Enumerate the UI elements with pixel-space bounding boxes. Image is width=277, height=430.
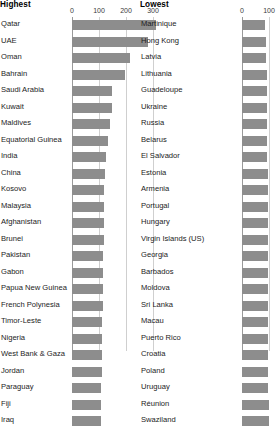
category-label: Belarus: [141, 135, 167, 145]
chart-row: Armenia: [140, 182, 277, 199]
category-label: Kosovo: [1, 184, 26, 194]
chart-row: Guadeloupe: [140, 83, 277, 100]
chart-row: Puerto Rico: [140, 331, 277, 348]
chart-row: Portugal: [140, 199, 277, 216]
bar: [242, 268, 268, 278]
chart-row: UAE: [0, 34, 163, 51]
bar: [242, 367, 268, 377]
chart-row: Poland: [140, 364, 277, 381]
category-label: Hong Kong: [141, 36, 179, 46]
panel-highest: Highest 0100200300 QatarUAEOmanBahrainSa…: [0, 0, 163, 351]
category-label: Kuwait: [1, 102, 24, 112]
bar: [72, 136, 108, 146]
category-label: Ukraine: [141, 102, 167, 112]
bar: [242, 37, 266, 47]
bar: [242, 20, 265, 30]
category-label: Hungary: [141, 217, 170, 227]
axis-tick-label: 100: [93, 7, 105, 15]
category-label: Georgia: [141, 250, 168, 260]
category-label: Macau: [141, 316, 164, 326]
bar: [72, 301, 103, 311]
bar: [242, 169, 268, 179]
axis-tick-label: 100: [263, 7, 275, 15]
category-label: Maldives: [1, 118, 31, 128]
chart-row: Moldova: [140, 281, 277, 298]
chart-row: Lithuania: [140, 67, 277, 84]
chart-row: Equatorial Guinea: [0, 133, 163, 150]
bar: [242, 334, 268, 344]
bar: [72, 367, 102, 377]
bar: [242, 301, 268, 311]
category-label: Poland: [141, 366, 165, 376]
chart-row: Kosovo: [0, 182, 163, 199]
category-label: Jordan: [1, 366, 24, 376]
category-label: Malaysia: [1, 201, 31, 211]
bar: [72, 119, 110, 129]
chart-row: Qatar: [0, 17, 163, 34]
category-label: Guadeloupe: [141, 85, 182, 95]
chart-row: Afghanistan: [0, 215, 163, 232]
category-label: Réunion: [141, 399, 169, 409]
category-label: Martinique: [141, 19, 176, 29]
chart-row: Sri Lanka: [140, 298, 277, 315]
chart-row: Oman: [0, 50, 163, 67]
chart-row: Pakistan: [0, 248, 163, 265]
axis-tick-label: 200: [120, 7, 132, 15]
chart-row: Fiji: [0, 397, 163, 414]
category-label: Puerto Rico: [141, 333, 181, 343]
chart-row: Russia: [140, 116, 277, 133]
bar: [242, 185, 268, 195]
bar: [72, 268, 103, 278]
chart-row: Estonia: [140, 166, 277, 183]
category-label: Nigeria: [1, 333, 25, 343]
chart-row: Maldives: [0, 116, 163, 133]
category-label: Bahrain: [1, 69, 27, 79]
chart-row: Gabon: [0, 265, 163, 282]
chart-row: El Salvador: [140, 149, 277, 166]
category-label: Portugal: [141, 201, 169, 211]
bar: [72, 70, 125, 80]
chart-row: Timor-Leste: [0, 314, 163, 331]
bar: [72, 202, 104, 212]
bar: [72, 235, 104, 245]
chart-row: West Bank & Gaza: [0, 347, 163, 364]
category-label: Barbados: [141, 267, 174, 277]
panel-lowest: Lowest 0100 MartiniqueHong KongLatviaLit…: [140, 0, 277, 351]
chart-row: Uruguay: [140, 380, 277, 397]
bar: [242, 152, 267, 162]
bar: [72, 400, 101, 410]
bar: [72, 185, 104, 195]
chart-row: Macau: [140, 314, 277, 331]
chart-row: Saudi Arabia: [0, 83, 163, 100]
bar: [242, 317, 268, 327]
bar: [242, 350, 268, 360]
axis-tick-label: 0: [70, 7, 74, 15]
bar: [242, 251, 268, 261]
category-label: Swaziland: [141, 415, 176, 425]
bar: [242, 235, 268, 245]
chart-row: Belarus: [140, 133, 277, 150]
chart-row: French Polynesia: [0, 298, 163, 315]
bar: [72, 350, 102, 360]
category-label: Oman: [1, 52, 22, 62]
category-label: Virgin Islands (US): [141, 234, 204, 244]
chart-row: Bahrain: [0, 67, 163, 84]
category-label: Moldova: [141, 283, 170, 293]
chart-row: Georgia: [140, 248, 277, 265]
category-label: Saudi Arabia: [1, 85, 44, 95]
category-label: Armenia: [141, 184, 169, 194]
chart-row: Latvia: [140, 50, 277, 67]
bar: [242, 70, 267, 80]
bar: [72, 416, 101, 426]
bar: [72, 37, 148, 47]
category-label: Gabon: [1, 267, 24, 277]
bar: [242, 136, 267, 146]
bar: [242, 284, 268, 294]
category-label: Timor-Leste: [1, 316, 41, 326]
chart-row: Barbados: [140, 265, 277, 282]
category-label: China: [1, 168, 21, 178]
chart-row: Virgin Islands (US): [140, 232, 277, 249]
chart-row: Kuwait: [0, 100, 163, 117]
panel-lowest-title: Lowest: [140, 0, 169, 10]
